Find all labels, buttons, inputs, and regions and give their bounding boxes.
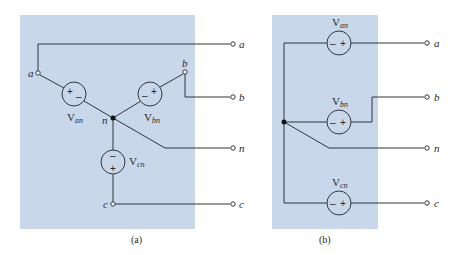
vbn-plus-sign: + (151, 86, 157, 97)
terminal-label-c-left: c (239, 198, 244, 210)
circuit-diagram: a b n c a b n c + – – + – + Van Vbn Vcn … (0, 0, 455, 255)
terminal-label-b-right: b (434, 91, 440, 103)
panel-a-background (20, 15, 195, 229)
vbn-minus-sign: – (142, 90, 148, 101)
terminal-label-a-left: a (239, 38, 245, 50)
node-n-junction (111, 116, 116, 121)
van-b-minus: – (330, 38, 336, 49)
node-n-junction-b (282, 120, 287, 125)
terminal-b-right (425, 95, 429, 99)
terminal-c-right (425, 201, 429, 205)
van-minus-sign: – (76, 91, 82, 102)
terminal-label-c-right: c (434, 197, 439, 209)
terminal-label-n-left: n (239, 142, 245, 154)
terminal-label-n-right: n (434, 142, 440, 154)
node-b-open (183, 70, 187, 74)
terminal-c-left (231, 202, 235, 206)
caption-b: (b) (319, 234, 331, 246)
vcn-minus-sign: – (110, 150, 116, 161)
terminal-label-b-left: b (239, 91, 245, 103)
node-a-open (36, 71, 40, 75)
vcn-b-plus: + (340, 198, 346, 209)
terminal-a-right (425, 41, 429, 45)
node-label-c: c (103, 198, 108, 210)
caption-a: (a) (131, 234, 142, 246)
vbn-b-minus: – (330, 117, 336, 128)
terminal-n-left (231, 146, 235, 150)
node-label-b: b (182, 57, 188, 69)
vcn-b-minus: – (330, 198, 336, 209)
node-label-a: a (28, 67, 34, 79)
node-c-open (111, 202, 115, 206)
terminal-label-a-right: a (434, 37, 440, 49)
node-label-n: n (102, 114, 108, 126)
terminal-n-right (425, 146, 429, 150)
van-plus-sign: + (67, 86, 73, 97)
van-b-plus: + (340, 38, 346, 49)
terminal-a-left (231, 42, 235, 46)
vcn-plus-sign: + (110, 163, 116, 174)
vbn-b-plus: + (340, 117, 346, 128)
terminal-b-left (231, 95, 235, 99)
